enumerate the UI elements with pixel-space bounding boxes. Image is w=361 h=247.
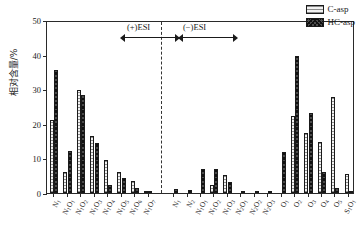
x-tick-mark [94,194,95,197]
bar-hc-asp [95,143,99,193]
bar-c-asp [304,133,308,193]
bar-c-asp [331,97,335,193]
bar-group [304,22,317,193]
x-tick-mark [321,194,322,197]
legend-entry-hc-asp: HC-asp [306,17,356,28]
bar-group [77,22,90,193]
y-tick-label: 0 [19,190,41,199]
bar-hc-asp [295,56,299,193]
bar-group [345,22,358,193]
y-tick-label: 40 [19,52,41,61]
x-tick-mark [213,194,214,197]
y-tick-label: 30 [19,86,41,95]
bar-hc-asp [322,172,326,193]
plot-area [46,21,354,194]
y-tick-label: 10 [19,155,41,164]
bar-c-asp [77,90,81,193]
bar-c-asp [50,120,54,193]
bar-hc-asp [108,185,112,193]
bar-group [170,22,183,193]
positive-esi-label: (+)ESI [127,22,150,32]
bar-hc-asp [122,178,126,193]
bar-group [210,22,223,193]
bar-hc-asp [228,182,232,193]
bar-group [291,22,304,193]
bar-group [117,22,130,193]
bar-group [331,22,344,193]
x-tick-mark [348,194,349,197]
x-tick-mark [148,194,149,197]
bar-c-asp [210,185,214,193]
bar-hc-asp [81,95,85,193]
bar-hc-asp [309,113,313,193]
y-tick-mark [43,194,47,195]
legend-swatch-hc-asp [306,18,324,27]
bar-hc-asp [188,190,192,193]
bar-group [144,22,157,193]
x-tick-mark [308,194,309,197]
bar-hc-asp [268,191,272,193]
y-tick-label: 50 [19,17,41,26]
bar-group [63,22,76,193]
bar-c-asp [131,181,135,193]
bar-group [90,22,103,193]
legend-swatch-c-asp [306,5,324,14]
bar-hc-asp [255,191,259,193]
x-tick-mark [134,194,135,197]
y-axis-label: 相对含量/% [7,27,20,119]
figure-root: 相对含量/% 01020304050 N1N1O1N1O2N1O3N1O4N1O… [0,0,361,247]
legend-label-hc-asp: HC-asp [328,17,356,28]
x-tick-mark [107,194,108,197]
bar-hc-asp [174,189,178,193]
bar-group [318,22,331,193]
esi-mode-annotation: (+)ESI (−)ESI [118,22,240,46]
bar-hc-asp [214,169,218,193]
legend-label-c-asp: C-asp [328,4,349,15]
bar-hc-asp [148,191,152,193]
bar-c-asp [117,172,121,193]
esi-mode-divider [161,22,162,193]
x-tick-mark [173,194,174,197]
x-tick-mark [240,194,241,197]
x-tick-mark [281,194,282,197]
bar-hc-asp [282,152,286,193]
bar-group [250,22,263,193]
negative-esi-label: (−)ESI [183,22,206,32]
x-tick-mark [187,194,188,197]
bar-c-asp [144,191,148,193]
positive-esi-range-bar [124,37,176,38]
x-tick-mark [67,194,68,197]
bar-group [237,22,250,193]
legend-entry-c-asp: C-asp [306,4,356,15]
bar-hc-asp [135,188,139,193]
x-tick-mark [267,194,268,197]
bar-group [50,22,63,193]
bar-c-asp [223,175,227,193]
arrow-right-icon [233,34,238,42]
negative-esi-range-bar [182,37,234,38]
bar-c-asp [63,172,67,193]
bar-c-asp [90,136,94,193]
x-tick-mark [254,194,255,197]
bar-group [197,22,210,193]
bar-c-asp [345,174,349,193]
bar-hc-asp [201,169,205,193]
bar-c-asp [318,142,322,193]
x-tick-mark [121,194,122,197]
x-tick-mark [53,194,54,197]
bar-group [104,22,117,193]
bar-group [183,22,196,193]
y-tick-label: 20 [19,121,41,130]
x-tick-mark [334,194,335,197]
bar-c-asp [291,116,295,193]
x-tick-mark [294,194,295,197]
bar-hc-asp [241,191,245,193]
bar-c-asp [104,160,108,193]
bar-hc-asp [54,70,58,193]
x-tick-mark [80,194,81,197]
bar-hc-asp [335,188,339,193]
legend: C-asp HC-asp [306,4,356,30]
bar-hc-asp [68,151,72,193]
x-tick-mark [200,194,201,197]
x-tick-mark [227,194,228,197]
